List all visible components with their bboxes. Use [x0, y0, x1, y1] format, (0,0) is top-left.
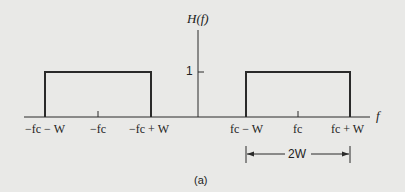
positive-passband — [246, 72, 350, 117]
tick-label-neg-low: −fc − W — [25, 122, 65, 137]
y-axis-label: H(f) — [187, 11, 209, 27]
tick-label-neg-high: −fc + W — [129, 122, 169, 137]
tick-label-pos-center: fc — [293, 122, 302, 137]
tick-label-neg-center: −fc — [90, 122, 106, 137]
level-label: 1 — [186, 64, 193, 78]
figure-caption: (a) — [194, 174, 207, 186]
tick-label-pos-low: fc − W — [230, 122, 263, 137]
tick-label-pos-high: fc + W — [331, 122, 364, 137]
arrowhead-right-icon — [342, 152, 349, 157]
negative-passband — [45, 72, 151, 117]
x-axis-label: f — [376, 108, 380, 124]
arrowhead-left-icon — [247, 152, 254, 157]
frequency-response-diagram — [0, 0, 405, 192]
bandwidth-label: 2W — [288, 147, 306, 161]
